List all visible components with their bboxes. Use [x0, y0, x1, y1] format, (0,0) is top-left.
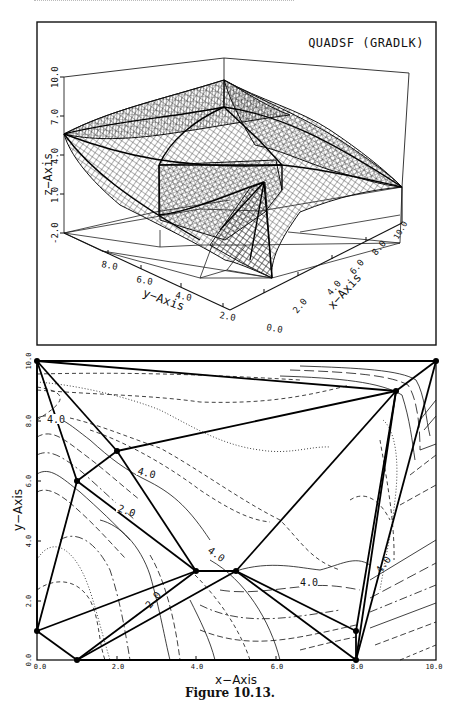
svg-text:4.0: 4.0	[25, 535, 33, 548]
contour-y-tick-labels: 0.0 2.0 4.0 6.0 8.0 10.0	[25, 353, 33, 667]
svg-text:0.0: 0.0	[25, 654, 33, 667]
svg-text:6.0: 6.0	[271, 663, 284, 671]
svg-text:8.0: 8.0	[25, 415, 33, 428]
svg-text:4.0: 4.0	[191, 663, 204, 671]
svg-text:6.0: 6.0	[25, 475, 33, 488]
svg-text:4.0: 4.0	[300, 577, 318, 588]
node	[34, 628, 40, 634]
svg-text:2.0: 2.0	[112, 663, 125, 671]
svg-text:8.0: 8.0	[351, 663, 364, 671]
contour-x-tick-labels: 0.0 2.0 4.0 6.0 8.0 10.0	[34, 663, 443, 671]
svg-text:7.0: 7.0	[50, 109, 60, 125]
z-axis-label: z−Axis	[41, 153, 55, 196]
figure-caption: Figure 10.13.	[0, 686, 460, 700]
svg-text:4.0: 4.0	[47, 414, 65, 425]
contour-x-axis-label: x−Axis	[215, 673, 257, 687]
node	[393, 388, 399, 394]
node	[74, 478, 80, 484]
contour-y-axis-label: y−Axis	[11, 489, 25, 531]
svg-text:2.0: 2.0	[116, 503, 137, 520]
svg-text:4.0: 4.0	[206, 545, 227, 564]
svg-text:2.0: 2.0	[25, 595, 33, 608]
svg-text:-2.0: -2.0	[50, 222, 60, 244]
svg-text:4.0: 4.0	[374, 554, 393, 575]
node	[34, 358, 40, 364]
node	[353, 628, 359, 634]
contour-plot: 4.0 4.0 2.0 4.0 4.0 2.0 4.0 0.0 2.0	[11, 353, 442, 687]
svg-text:10.0: 10.0	[426, 663, 443, 671]
node	[114, 448, 120, 454]
node	[233, 568, 239, 574]
surface-plot-title: QUADSF (GRADLK)	[308, 36, 424, 50]
triangulation-edges	[37, 361, 436, 660]
surface-plot: QUADSF (GRADLK)	[37, 22, 436, 345]
svg-text:0.0: 0.0	[34, 663, 47, 671]
figure: QUADSF (GRADLK)	[0, 0, 460, 710]
svg-text:10.0: 10.0	[50, 66, 60, 88]
svg-text:2.0: 2.0	[143, 589, 163, 610]
node	[193, 568, 199, 574]
svg-text:10.0: 10.0	[25, 353, 33, 370]
node	[74, 657, 80, 663]
node	[433, 358, 439, 364]
